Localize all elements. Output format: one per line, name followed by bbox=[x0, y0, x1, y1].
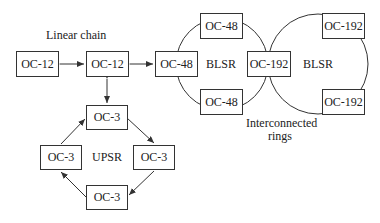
node-oc192-top: OC-192 bbox=[322, 13, 365, 39]
interconnected-rings-label: Interconnected rings bbox=[246, 117, 314, 143]
upsr-link-right-bottom bbox=[129, 171, 154, 195]
upsr-link-top-right bbox=[127, 118, 154, 143]
interconnected-line2: rings bbox=[246, 130, 314, 143]
node-oc192-shared: OC-192 bbox=[247, 51, 291, 77]
upsr-label: UPSR bbox=[92, 151, 122, 164]
blsr-label-left: BLSR bbox=[206, 58, 236, 71]
network-topology-diagram: Linear chain OC-12 OC-12 OC-48 OC-48 OC-… bbox=[0, 0, 380, 223]
node-oc3-bottom: OC-3 bbox=[86, 185, 128, 210]
blsr-label-right: BLSR bbox=[303, 58, 333, 71]
node-oc3-right: OC-3 bbox=[133, 145, 175, 170]
node-oc48-bottom: OC-48 bbox=[200, 89, 243, 115]
node-oc192-bottom: OC-192 bbox=[322, 89, 365, 115]
node-oc48-top: OC-48 bbox=[200, 13, 243, 39]
node-oc12-mid: OC-12 bbox=[86, 51, 129, 77]
upsr-link-left-top bbox=[61, 119, 85, 144]
node-oc3-top: OC-3 bbox=[86, 105, 128, 130]
node-oc12-left: OC-12 bbox=[16, 51, 59, 77]
linear-chain-label: Linear chain bbox=[46, 29, 106, 42]
upsr-link-bottom-left bbox=[61, 172, 86, 197]
node-oc48-left: OC-48 bbox=[155, 51, 198, 77]
node-oc3-left: OC-3 bbox=[40, 145, 82, 170]
